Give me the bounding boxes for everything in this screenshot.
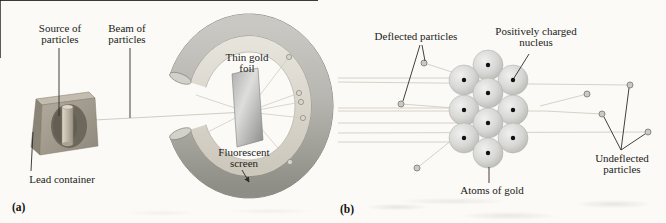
lead-container [31,92,98,155]
source-cylinder-bottom [62,142,73,146]
nucleus-dot [511,108,515,112]
source-cylinder-top [62,105,73,109]
scan-noise-right [338,194,666,223]
gold-foil [232,68,263,147]
nucleus-dot [462,78,466,82]
alpha-particle [414,165,420,171]
alpha-particle [645,129,651,135]
screen-flash [287,159,292,164]
label-lead-container: Lead container [29,174,95,185]
beam-line [75,112,246,121]
screen-flash [300,115,305,120]
screen-flash [298,99,303,104]
alpha-particle [421,60,427,66]
particle-path [401,104,455,108]
alpha-particle [398,101,404,107]
scan-edge-top [0,0,318,1]
nucleus-dot [486,151,490,155]
deflected-pointer-line-2 [422,45,425,61]
label-thin-gold-foil: Thin gold foil [218,52,276,73]
nucleus-dot [511,136,515,140]
alpha-particle [627,82,633,88]
label-positively-charged-nucleus: Positively charged nucleus [480,26,592,47]
nucleus-dot [486,91,490,95]
label-undeflected-particles: Undeflected particles [581,153,663,174]
nucleus-dot [462,108,466,112]
label-beam-of-particles: Beam of particles [99,23,155,44]
undeflected-pointer-line-2 [604,117,621,150]
undeflected-pointer-line-3 [621,134,645,150]
screen-flash [286,54,291,59]
particle-path [540,94,587,106]
scan-edge-left [0,0,1,58]
undeflected-pointer-line-1 [621,88,629,150]
nucleus-dot [462,136,466,140]
label-fluorescent-screen: Fluorescent screen [206,147,282,168]
nucleus-dot [486,121,490,125]
scan-noise-left [90,204,330,222]
nucleus-dot [511,78,515,82]
rutherford-experiment-figure: Source of particles Beam of particles Th… [0,0,666,223]
deflected-pointer-line-1 [403,45,420,101]
source-cylinder [62,107,73,144]
pointer-lines [31,45,645,183]
particle-path [417,140,452,168]
screen-flash [296,90,301,95]
label-source-of-particles: Source of particles [29,23,91,44]
label-deflected-particles: Deflected particles [375,31,458,42]
alpha-particle [584,91,590,97]
gold-atoms-cluster [449,50,528,168]
nucleus-dot [486,63,490,67]
alpha-particle [599,111,605,117]
panel-a-tag: (a) [12,201,25,213]
